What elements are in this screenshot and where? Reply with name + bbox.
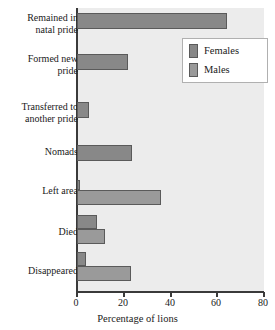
bar-females-transferred-another-pride bbox=[77, 102, 89, 118]
category-label-line-1: Formed new bbox=[0, 53, 78, 65]
bar-females-disappeared bbox=[77, 252, 86, 266]
legend-entry-males: Males bbox=[189, 63, 230, 77]
x-tick-label-40: 40 bbox=[155, 297, 185, 309]
bar-chart-figure: 0 20 40 60 80 Percentage of lions Remain… bbox=[0, 0, 275, 330]
legend-swatch-females-icon bbox=[189, 44, 198, 58]
category-label-line-1: Died bbox=[0, 226, 78, 238]
legend-entry-females: Females bbox=[189, 44, 239, 58]
x-tick-label-80: 80 bbox=[248, 297, 275, 309]
legend-label-males: Males bbox=[204, 64, 230, 76]
category-label-nomads: Nomads bbox=[0, 146, 78, 158]
category-label-died: Died bbox=[0, 226, 78, 238]
category-label-line-2: natal pride bbox=[0, 24, 78, 36]
category-label-disappeared: Disappeared bbox=[0, 265, 78, 277]
category-label-transferred-to-another-pride: Transferred to another pride bbox=[0, 101, 78, 124]
category-label-line-1: Transferred to bbox=[0, 101, 78, 113]
category-label-formed-new-pride: Formed new pride bbox=[0, 53, 78, 76]
category-label-line-1: Disappeared bbox=[0, 265, 78, 277]
bar-females-remained-in-natal-pride bbox=[77, 13, 227, 29]
x-tick-label-0: 0 bbox=[61, 297, 91, 309]
bar-males-left-area bbox=[77, 190, 161, 205]
category-label-remained-in-natal-pride: Remained in natal pride bbox=[0, 12, 78, 35]
category-label-line-2: pride bbox=[0, 65, 78, 77]
bar-females-died bbox=[77, 215, 97, 229]
legend-label-females: Females bbox=[204, 45, 239, 57]
legend-swatch-males-icon bbox=[189, 63, 198, 77]
x-axis-title: Percentage of lions bbox=[0, 313, 275, 324]
bar-males-disappeared bbox=[77, 266, 131, 281]
bar-males-died bbox=[77, 229, 105, 244]
x-tick-label-60: 60 bbox=[201, 297, 231, 309]
bar-females-formed-new-pride bbox=[77, 54, 128, 70]
category-label-line-1: Remained in bbox=[0, 12, 78, 24]
category-label-line-1: Left area bbox=[0, 185, 78, 197]
bar-females-left-area bbox=[77, 180, 80, 190]
category-label-left-area: Left area bbox=[0, 185, 78, 197]
category-label-line-1: Nomads bbox=[0, 146, 78, 158]
legend: Females Males bbox=[182, 38, 268, 83]
bar-females-nomads bbox=[77, 145, 132, 161]
x-tick-label-20: 20 bbox=[108, 297, 138, 309]
category-label-line-2: another pride bbox=[0, 113, 78, 125]
